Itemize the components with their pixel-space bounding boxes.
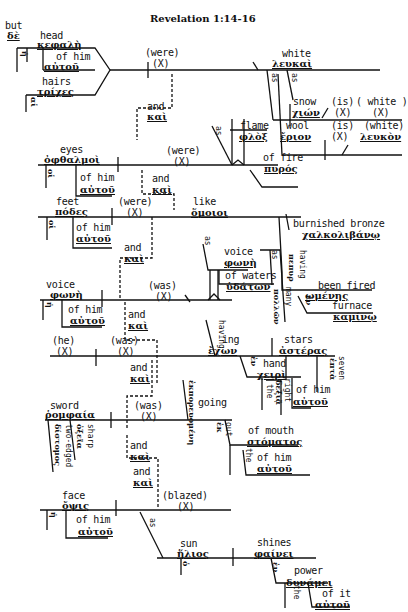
verb-was: (was) [134, 400, 163, 411]
modifier-of-him-greek: αὐτοῦ [78, 526, 113, 537]
verb-x: (X) [126, 207, 143, 218]
having-label: having [298, 250, 306, 279]
modifier-of-him: of him [80, 172, 114, 183]
pred-white: (white) [364, 120, 404, 131]
article-the: the [244, 448, 252, 462]
participle-greek: ἔχων [208, 345, 237, 356]
subject-voice-greek: φωνὴ [50, 289, 83, 300]
verb-x: (X) [155, 291, 172, 302]
pred-white-x: (X) [372, 107, 389, 118]
as-label: as [203, 236, 211, 246]
verb-were: (were) [166, 145, 200, 156]
article-greek: ἡ [21, 51, 29, 57]
article-greek: ἡ [50, 512, 58, 518]
adj-right-greek: δεξιᾷ [275, 380, 283, 405]
and-greek: καὶ [130, 451, 150, 462]
participle-suffix: ing [222, 334, 239, 345]
verb-x: (X) [140, 411, 157, 422]
verb-was: (was) [110, 335, 139, 346]
subject-face-greek: ὄψις [62, 500, 89, 511]
verb-is: (is) [331, 120, 354, 131]
prep-in-greek: ἐν [250, 356, 258, 366]
noun-snow: snow [293, 96, 316, 107]
many-greek: πολλῶν [273, 289, 281, 325]
modifier-of-it-greek: αὐτοῦ [315, 599, 350, 610]
as-label: as [148, 518, 156, 528]
number-seven-greek: ἑπτὰ [329, 358, 337, 380]
having-greek: πεπυρ [288, 254, 296, 281]
pred-white: ( white ) [356, 96, 408, 107]
verb-is-x: (X) [331, 131, 348, 142]
verb-shines: shines [257, 537, 291, 548]
and-label: and [133, 466, 150, 477]
verb-is-x: (X) [334, 107, 351, 118]
subject-eyes-greek: ὀφθαλμοὶ [44, 154, 100, 165]
participle-greek-prefix: ἐκπορευομένη [188, 380, 196, 445]
noun-sun-greek: ἥλιος [177, 548, 209, 559]
article-greek: οἱ [48, 220, 56, 229]
object-bronze-greek: χαλκολιβάνῳ [302, 229, 380, 240]
modifier-of-it: of it [322, 588, 351, 599]
and-label: and [152, 173, 169, 184]
noun-hand-greek: χειρὶ [257, 369, 286, 380]
noun-voice-greek: φωνὴ [224, 257, 257, 268]
and-label: and [124, 242, 141, 253]
modifier-of-him: of him [296, 384, 330, 395]
and-greek: καὶ [128, 320, 148, 331]
article-the: the [292, 585, 300, 599]
as-label: as [270, 73, 278, 83]
modifier-of-him-greek: αὐτοῦ [80, 184, 115, 195]
adj-right: right [283, 378, 291, 402]
and-greek: καὶ [133, 477, 153, 488]
verb-x: (X) [117, 346, 134, 357]
number-seven: seven [337, 356, 345, 380]
participle-going: going [198, 397, 227, 408]
modifier-of-waters-greek: ὑδάτων [226, 281, 271, 292]
and-label: and [128, 309, 145, 320]
prep-out: out [224, 422, 232, 436]
modifier-of-him: of him [68, 304, 102, 315]
and-greek: καὶ [152, 184, 172, 195]
adj-sharp-greek: ὀξεῖα [76, 424, 84, 449]
article-greek: οἱ [47, 169, 55, 178]
article-the: the [265, 384, 273, 398]
diagram-title: Revelation 1:14-16 [150, 13, 256, 24]
modifier-of-him-greek: αὐτοῦ [76, 233, 111, 244]
subject-sword-greek: ῥομφαία [45, 409, 95, 420]
modifier-of-him-greek: αὐτοῦ [257, 463, 292, 474]
as-label: as [214, 126, 222, 136]
verb-were: (were) [145, 47, 179, 58]
noun-of-mouth: of mouth [248, 425, 294, 436]
and-label: and [130, 362, 147, 373]
adj-two-edged: two-edged [64, 424, 72, 467]
subject-head-greek: κεφαλὴ [37, 39, 82, 50]
modifier-of-him: of him [257, 452, 291, 463]
noun-voice: voice [224, 246, 253, 257]
verb-were: (were) [118, 196, 152, 207]
as-label: as [270, 250, 278, 260]
subject-feet-greek: πόδες [55, 206, 88, 217]
object-burnished-bronze: burnished bronze [293, 218, 385, 229]
noun-flame: flame [240, 120, 269, 131]
modifier-of-fire-greek: πυρός [264, 163, 298, 174]
noun-mouth-greek: στόματος [247, 436, 302, 447]
object-stars: stars [284, 334, 313, 345]
article-greek: ὁ [182, 561, 190, 566]
subject-he: (he) [52, 335, 75, 346]
object-stars-greek: ἀστέρας [279, 345, 327, 356]
modifier-of-fire: of fire [263, 152, 303, 163]
noun-power: power [294, 565, 323, 576]
noun-hand: hand [263, 358, 286, 369]
noun-snow-greek: χιών [292, 107, 320, 118]
modifier-of-waters: of waters [225, 270, 277, 281]
verb-is: (is) [331, 96, 354, 107]
modifier-of-him-greek: αὐτοῦ [44, 61, 79, 72]
modifier-of-him-greek: αὐτοῦ [70, 315, 105, 326]
as-label: as [290, 73, 298, 83]
noun-wool-greek: ἔριον [280, 131, 311, 142]
modifier-of-him: of him [76, 514, 110, 525]
adj-two-edged-greek: δίστομος [54, 424, 62, 466]
noun-furnace-greek: καμίνῳ [333, 311, 377, 322]
prep-in-greek: ἐν [305, 295, 313, 305]
verb-x: (X) [152, 58, 169, 69]
